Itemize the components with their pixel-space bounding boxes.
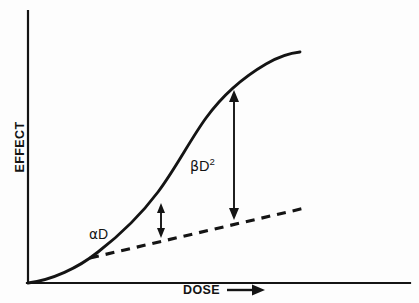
beta-term-label: βD2 [190,158,215,174]
total-effect-curve [28,52,300,283]
alpha-symbol: α [89,226,98,242]
alpha-base: D [98,226,108,242]
alpha-gap-arrow [157,203,165,238]
beta-exponent: 2 [210,156,215,167]
beta-base: D [199,158,209,174]
beta-symbol: β [190,158,199,174]
y-axis-label: EFFECT [13,107,27,187]
right-arrow-icon [227,284,267,296]
axes [27,11,410,283]
alpha-term-label: αD [89,226,108,242]
dose-effect-figure: EFFECT DOSE αD βD2 [0,0,419,303]
plot-canvas [0,0,419,303]
x-axis-label: DOSE [183,283,220,297]
x-axis-label-group: DOSE [183,283,267,297]
beta-gap-arrow [229,90,239,220]
